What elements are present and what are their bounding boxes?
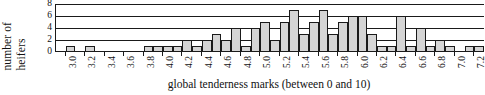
histogram-figure: number of heifers 86420 3.03.23.43.63.84… (0, 0, 485, 95)
y-axis-title-line-1: number of (2, 22, 14, 70)
x-tick-label-5.6: 5.6 (322, 56, 332, 68)
bar (280, 22, 290, 52)
bar (251, 28, 261, 52)
x-tick-label-5.8: 5.8 (341, 56, 351, 68)
x-tick-label-6.6: 6.6 (419, 56, 429, 68)
bar (212, 34, 222, 52)
bar (319, 10, 329, 52)
x-tick-label-4.6: 4.6 (224, 56, 234, 68)
bar (231, 28, 241, 52)
x-tick-label-7.0: 7.0 (458, 56, 468, 68)
x-tick-label-6.4: 6.4 (399, 56, 409, 68)
y-tick-label-2: 2 (47, 35, 52, 45)
x-tick-label-5.2: 5.2 (283, 56, 293, 68)
bar (309, 22, 319, 52)
x-tick-label-6.2: 6.2 (380, 56, 390, 68)
x-tick-label-3.0: 3.0 (69, 56, 79, 68)
y-tick-label-6: 6 (47, 11, 52, 21)
y-axis-title: number of heifers (0, 0, 40, 72)
x-tick-label-4.4: 4.4 (205, 56, 215, 68)
bar (299, 34, 309, 52)
x-tick-label-3.4: 3.4 (108, 56, 118, 68)
bar (348, 16, 358, 52)
x-tick-label-4.2: 4.2 (185, 56, 195, 68)
bar (358, 16, 368, 52)
x-tick-label-4.0: 4.0 (166, 56, 176, 68)
x-tick-label-3.8: 3.8 (147, 56, 157, 68)
plot-area (55, 4, 484, 52)
x-tick-label-6.0: 6.0 (361, 56, 371, 68)
y-tick-label-8: 8 (47, 0, 52, 9)
x-tick-label-5.4: 5.4 (302, 56, 312, 68)
x-tick-label-7.2: 7.2 (477, 56, 485, 68)
x-axis-title: global tenderness marks (between 0 and 1… (55, 79, 483, 91)
y-tick-label-0: 0 (47, 47, 52, 57)
bar (396, 16, 406, 52)
bar (260, 22, 270, 52)
y-axis-title-line-2: heifers (16, 38, 28, 70)
y-tick-label-4: 4 (47, 23, 52, 33)
bar-series (56, 4, 484, 52)
bar (289, 10, 299, 52)
bar (328, 34, 338, 52)
plot-inner (56, 4, 484, 52)
x-tick-label-6.8: 6.8 (438, 56, 448, 68)
bar (416, 28, 426, 52)
y-axis-tick-labels: 86420 (40, 0, 53, 56)
bar (367, 34, 377, 52)
x-tick-label-4.8: 4.8 (244, 56, 254, 68)
x-axis-tick-labels: 3.03.23.43.63.84.04.24.44.64.85.05.25.45… (55, 56, 483, 78)
x-tick-label-3.2: 3.2 (88, 56, 98, 68)
bar (338, 22, 348, 52)
x-tick-label-3.6: 3.6 (127, 56, 137, 68)
x-tick-label-5.0: 5.0 (263, 56, 273, 68)
